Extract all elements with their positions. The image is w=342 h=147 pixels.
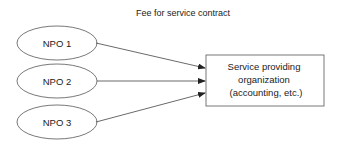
diagram-canvas: NPO 1 NPO 2 NPO 3 Service providing orga…: [0, 0, 342, 147]
node-npo-2: NPO 2: [17, 64, 97, 98]
node-label: NPO 1: [43, 38, 72, 49]
node-npo-3: NPO 3: [17, 105, 97, 139]
arrow-npo3-to-org: [96, 93, 205, 122]
node-label: NPO 3: [43, 117, 72, 128]
arrow-npo1-to-org: [96, 43, 205, 68]
node-npo-1: NPO 1: [17, 26, 97, 60]
box-label-line-2: organization: [238, 74, 290, 85]
node-label: NPO 2: [43, 76, 72, 87]
node-service-organization: Service providing organization (accounti…: [206, 55, 324, 106]
box-label-line-1: Service providing: [228, 61, 301, 72]
box-label-line-3: (accounting, etc.): [230, 87, 303, 98]
